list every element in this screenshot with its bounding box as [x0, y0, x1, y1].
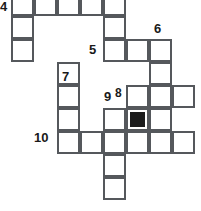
- crossword-puzzle-grid: 45678910: [0, 0, 201, 211]
- crossword-cell[interactable]: [34, 0, 57, 16]
- clue-number-4: 4: [0, 0, 7, 13]
- crossword-cell[interactable]: [149, 85, 172, 108]
- crossword-cell[interactable]: [126, 85, 149, 108]
- crossword-cell[interactable]: [149, 62, 172, 85]
- clue-number-5: 5: [89, 43, 96, 56]
- crossword-cell[interactable]: [57, 0, 80, 16]
- crossword-cell[interactable]: [149, 108, 172, 131]
- crossword-cell[interactable]: [103, 16, 126, 39]
- crossword-cell[interactable]: [126, 39, 149, 62]
- clue-number-9: 9: [104, 90, 111, 103]
- crossword-cell[interactable]: [103, 0, 126, 16]
- clue-number-10: 10: [34, 131, 48, 144]
- crossword-cell[interactable]: [57, 85, 80, 108]
- clue-number-7: 7: [62, 70, 69, 83]
- crossword-cell[interactable]: [80, 0, 103, 16]
- crossword-cell[interactable]: [80, 131, 103, 154]
- clue-number-8: 8: [115, 87, 122, 99]
- crossword-cell[interactable]: [57, 108, 80, 131]
- crossword-cell[interactable]: [172, 85, 195, 108]
- crossword-cell[interactable]: [172, 131, 195, 154]
- crossword-cell[interactable]: [103, 108, 126, 131]
- crossword-blocked-cell: [126, 108, 149, 131]
- crossword-cell[interactable]: [11, 0, 34, 16]
- crossword-cell[interactable]: [103, 177, 126, 200]
- crossword-cell[interactable]: [11, 39, 34, 62]
- crossword-cell[interactable]: [11, 16, 34, 39]
- crossword-cell[interactable]: [149, 39, 172, 62]
- crossword-cell[interactable]: [103, 39, 126, 62]
- crossword-cell[interactable]: [103, 131, 126, 154]
- clue-number-6: 6: [154, 22, 161, 35]
- crossword-cell[interactable]: [149, 131, 172, 154]
- crossword-cell[interactable]: [103, 154, 126, 177]
- crossword-cell[interactable]: [57, 131, 80, 154]
- crossword-cell[interactable]: [126, 131, 149, 154]
